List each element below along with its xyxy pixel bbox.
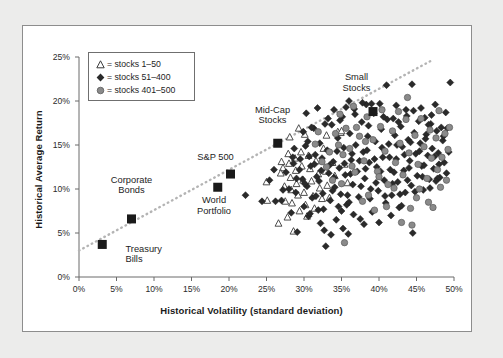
data-point (316, 185, 323, 191)
data-point (437, 184, 443, 190)
x-tick-label: 45% (400, 284, 434, 294)
data-point (334, 148, 341, 155)
data-point (347, 145, 353, 151)
x-tick-label: 15% (175, 284, 209, 294)
data-point (272, 198, 279, 205)
data-point (371, 156, 378, 163)
data-point (358, 183, 365, 190)
x-tick-label: 10% (137, 284, 171, 294)
data-point (315, 129, 321, 135)
data-point (400, 172, 406, 178)
data-point (264, 197, 271, 203)
data-point (362, 138, 368, 144)
data-point (291, 145, 298, 152)
benchmark-marker (127, 214, 136, 223)
data-point (421, 144, 427, 150)
annotation-label: TreasuryBills (126, 244, 162, 265)
data-point (317, 220, 324, 227)
data-point (365, 122, 372, 129)
data-point (408, 182, 415, 189)
data-point (298, 148, 305, 154)
data-point (403, 106, 410, 113)
data-point (418, 105, 425, 112)
data-point (410, 107, 417, 114)
figure-root: Historical Average Return Historical Vol… (0, 0, 503, 358)
data-point (432, 101, 439, 108)
data-point (340, 151, 346, 157)
data-point (356, 133, 362, 139)
annotation-label: CorporateBonds (87, 175, 177, 196)
data-point (392, 159, 398, 165)
data-point (442, 109, 449, 116)
data-point (312, 151, 319, 158)
data-point (425, 199, 431, 205)
legend-item-label: = stocks 401–500 (107, 85, 175, 95)
data-point (416, 186, 422, 192)
data-point (436, 107, 442, 113)
benchmark-marker (98, 240, 107, 249)
data-point (335, 142, 341, 148)
data-point (409, 230, 416, 237)
benchmark-marker (273, 139, 282, 148)
legend: = stocks 1–50 = stocks 51–400 = stocks 4… (88, 52, 195, 101)
data-point (413, 195, 419, 201)
y-tick-label: 0% (40, 272, 70, 282)
legend-item: = stocks 51–400 (94, 70, 188, 83)
data-point (415, 161, 421, 167)
data-point (341, 239, 347, 245)
data-point (428, 155, 434, 161)
data-point (361, 175, 368, 182)
data-point (308, 177, 315, 183)
benchmark-marker (226, 170, 235, 179)
annotation-label: Mid-CapStocks (228, 105, 318, 126)
data-point (393, 102, 400, 109)
data-point (324, 182, 331, 188)
data-point (357, 215, 364, 222)
data-point (446, 124, 452, 130)
y-tick-label: 10% (40, 184, 70, 194)
legend-item: = stocks 1–50 (94, 57, 188, 70)
data-point (326, 149, 332, 155)
data-point (287, 174, 294, 180)
data-point (362, 165, 369, 172)
data-point (361, 158, 367, 164)
data-point (409, 222, 415, 228)
data-point (404, 94, 410, 100)
data-point (365, 192, 371, 198)
data-point (352, 111, 359, 118)
data-point (371, 207, 377, 213)
data-point (375, 187, 382, 194)
data-point (428, 112, 435, 119)
data-point (320, 206, 327, 213)
data-point (337, 191, 344, 198)
data-point (278, 158, 285, 164)
data-point (403, 116, 409, 122)
data-point (349, 181, 356, 188)
data-point (442, 130, 448, 136)
data-point (286, 133, 293, 139)
data-point (406, 157, 413, 164)
legend-item-label: = stocks 51–400 (107, 72, 171, 82)
data-point (312, 141, 318, 147)
annotation-label: S&P 500 (171, 152, 261, 163)
data-point (379, 107, 385, 113)
data-point (385, 181, 391, 187)
data-point (350, 211, 357, 218)
data-point (397, 140, 403, 146)
data-point (429, 145, 436, 152)
data-point (376, 173, 382, 179)
data-point (332, 130, 338, 136)
data-point (443, 170, 450, 177)
data-point (395, 108, 401, 114)
y-tick-label: 5% (40, 228, 70, 238)
data-point (376, 219, 383, 226)
data-point (328, 121, 335, 128)
y-tick-label: 25% (40, 52, 70, 62)
data-point (343, 125, 349, 131)
data-point (337, 111, 343, 117)
data-point (430, 204, 436, 210)
data-point (433, 135, 439, 141)
data-point (359, 198, 365, 204)
data-point (319, 159, 325, 165)
data-point (349, 163, 355, 169)
